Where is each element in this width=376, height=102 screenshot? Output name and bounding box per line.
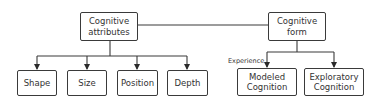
node-cognitive-form: Cognitiveform: [268, 12, 326, 41]
node-label-line2: Cognition: [247, 82, 288, 92]
node-exploratory-cognition: ExploratoryCognition: [304, 68, 364, 96]
node-depth: Depth: [167, 70, 208, 96]
edge-label-experience: Experience: [228, 57, 264, 65]
node-label-line1: Modeled: [249, 72, 285, 82]
node-label-line1: Cognitive: [277, 16, 317, 26]
node-modeled-cognition: ModeledCognition: [237, 68, 297, 96]
node-label: Depth: [175, 78, 201, 89]
node-label-line2: Cognition: [314, 82, 355, 92]
node-cognitive-attributes: Cognitiveattributes: [80, 12, 138, 41]
node-position: Position: [117, 70, 158, 96]
node-label: Position: [121, 78, 154, 89]
node-label: Shape: [24, 78, 51, 89]
node-size: Size: [67, 70, 107, 96]
node-label-line1: Cognitive: [89, 16, 129, 26]
node-shape: Shape: [17, 70, 57, 96]
node-label-line1: Exploratory: [309, 72, 358, 82]
node-label-line2: attributes: [88, 27, 130, 37]
node-label: Size: [78, 78, 95, 89]
node-label-line2: form: [287, 27, 307, 37]
